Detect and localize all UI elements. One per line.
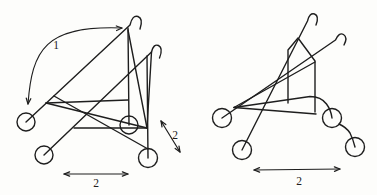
width-dimension-arrow: 2 [64,172,128,189]
seat-rail-lower [234,108,316,115]
stroller-folded: 2 [213,14,365,187]
front-leg [128,28,129,125]
arrow-shaft [254,169,340,170]
seat-rail-upper [46,100,128,103]
dimension-label: 2 [93,177,99,189]
side-brace [234,62,315,108]
diagram-page: 1222 [0,0,377,195]
fold-direction-arrow: 2 [161,121,180,152]
folded-rear-leg [339,124,355,147]
side-brace-1 [46,103,147,128]
arrow-shaft [28,28,122,104]
stroller-unfolded: 122 [17,16,180,189]
width-dimension-arrow: 2 [254,167,340,187]
side-brace-2 [54,96,148,149]
handle-tube-1 [26,16,141,122]
stroller-fold-diagram: 1222 [0,0,377,195]
dimension-label: 2 [172,129,178,141]
dimension-label: 2 [296,175,302,187]
dimension-label: 1 [53,39,59,51]
fold-motion-arrow: 1 [26,26,122,104]
fold-strut-1 [128,30,147,128]
